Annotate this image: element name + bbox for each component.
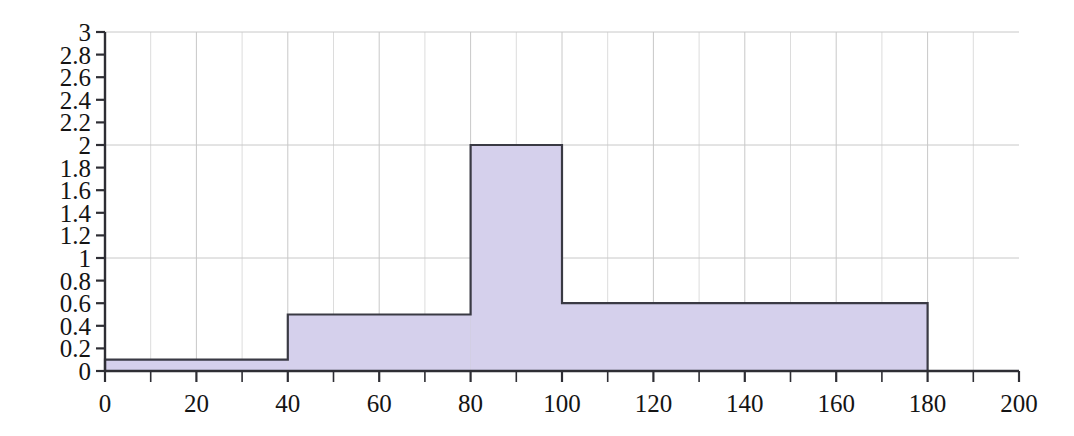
y-axis-tick-label: 0 bbox=[79, 359, 92, 384]
y-axis-tick-label: 1 bbox=[79, 246, 92, 271]
x-axis-tick-label: 180 bbox=[909, 391, 947, 416]
x-axis-tick-label: 0 bbox=[99, 391, 112, 416]
y-axis-tick-label: 1.4 bbox=[60, 200, 91, 225]
chart-plot-area bbox=[0, 0, 1074, 436]
histogram-bar bbox=[471, 145, 562, 371]
histogram-bar bbox=[288, 315, 471, 372]
x-axis-tick-label: 120 bbox=[635, 391, 673, 416]
x-axis-tick-label: 200 bbox=[1000, 391, 1038, 416]
y-axis-tick-label: 2.2 bbox=[60, 110, 91, 135]
y-axis-tick-label: 0.4 bbox=[60, 313, 91, 338]
y-axis-tick-label: 0.8 bbox=[60, 268, 91, 293]
y-axis-tick-label: 0.6 bbox=[60, 291, 91, 316]
y-axis-tick-label: 2 bbox=[79, 133, 92, 158]
histogram-bar bbox=[562, 303, 928, 371]
y-axis-ticks bbox=[96, 32, 105, 371]
y-axis-tick-label: 2.6 bbox=[60, 65, 91, 90]
histogram-bar bbox=[105, 360, 288, 371]
x-axis-tick-label: 80 bbox=[458, 391, 483, 416]
y-axis-tick-label: 2.8 bbox=[60, 42, 91, 67]
x-axis-tick-label: 60 bbox=[367, 391, 392, 416]
histogram-chart: 00.20.40.60.811.21.41.61.822.22.42.62.83… bbox=[0, 0, 1074, 436]
y-axis-tick-label: 1.2 bbox=[60, 223, 91, 248]
y-axis-tick-label: 3 bbox=[79, 20, 92, 45]
x-axis-tick-label: 40 bbox=[275, 391, 300, 416]
y-axis-tick-label: 0.2 bbox=[60, 336, 91, 361]
x-axis-tick-label: 160 bbox=[817, 391, 855, 416]
y-axis-tick-label: 1.6 bbox=[60, 178, 91, 203]
x-axis-tick-label: 100 bbox=[543, 391, 581, 416]
y-axis-tick-label: 2.4 bbox=[60, 87, 91, 112]
x-axis-tick-label: 20 bbox=[184, 391, 209, 416]
x-axis-tick-label: 140 bbox=[726, 391, 764, 416]
y-axis-tick-label: 1.8 bbox=[60, 155, 91, 180]
x-axis-ticks bbox=[105, 371, 1019, 382]
